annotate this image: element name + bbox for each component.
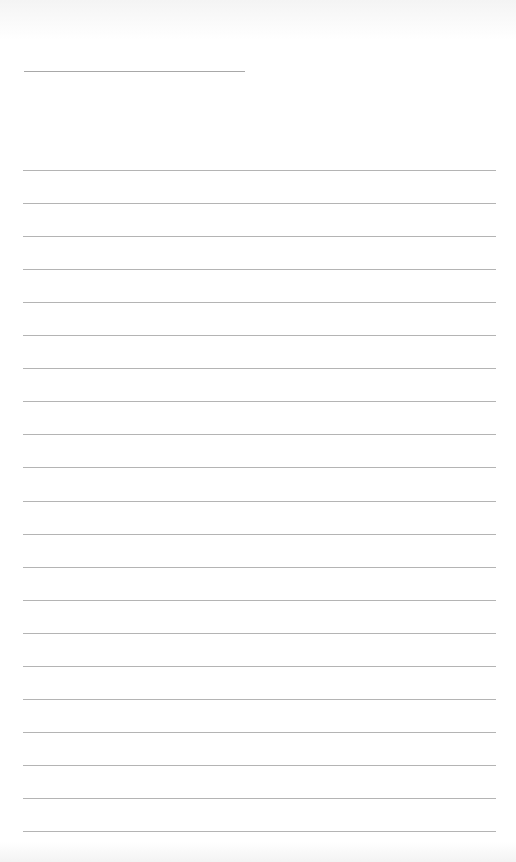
ruled-line (23, 401, 496, 402)
ruled-line (23, 335, 496, 336)
ruled-line (23, 534, 496, 535)
ruled-line (23, 798, 496, 799)
ruled-line (23, 467, 496, 468)
ruled-line (23, 831, 496, 832)
ruled-line (23, 434, 496, 435)
title-writing-line[interactable] (24, 71, 245, 72)
ruled-line (23, 666, 496, 667)
ruled-line (23, 236, 496, 237)
ruled-line (23, 600, 496, 601)
page-top-shadow (0, 0, 516, 40)
ruled-line (23, 501, 496, 502)
page-bottom-shadow (0, 842, 516, 862)
ruled-line (23, 302, 496, 303)
ruled-line (23, 567, 496, 568)
ruled-line (23, 368, 496, 369)
ruled-line (23, 765, 496, 766)
ruled-line (23, 699, 496, 700)
ruled-line (23, 633, 496, 634)
ruled-line (23, 170, 496, 171)
ruled-line (23, 269, 496, 270)
ruled-line (23, 203, 496, 204)
ruled-line (23, 732, 496, 733)
